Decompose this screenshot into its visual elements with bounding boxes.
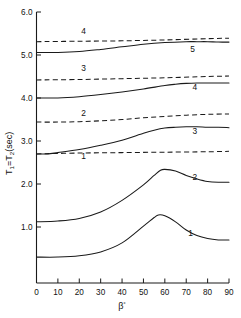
y-axis-title: T1=T2(sec) [4,132,15,175]
curve-label-1: 1 [188,228,193,238]
x-tick-label: 0 [34,288,39,297]
curve-label-5: 5 [190,44,195,54]
x-axis-title-deg: ° [123,300,126,307]
curve-label-2: 2 [192,172,197,182]
data-curve-4 [37,83,230,98]
data-curve-2d [37,114,230,122]
curve-label-1d: 1 [81,151,86,161]
curve-labels-group: 123451234 [81,26,197,239]
x-tick-label: 90 [224,288,234,297]
chart-figure: 1.02.03.04.05.06.0 0102030405060708090 1… [0,0,241,318]
data-curves-group [37,38,230,257]
y-tick-label: 2.0 [21,180,33,189]
y-tick-label: 4.0 [21,94,33,103]
x-tick-label: 10 [53,288,63,297]
data-curve-2 [37,169,230,222]
x-axis-title: β° [118,300,126,311]
x-axis-title-text: β° [118,300,126,311]
data-curve-1 [37,215,230,257]
x-tick-label: 40 [118,288,128,297]
x-tick-label: 80 [203,288,213,297]
data-curve-3d [37,76,230,80]
x-tick-label: 60 [160,288,170,297]
x-tick-label: 50 [139,288,149,297]
x-axis-ticks [37,279,230,284]
y-tick-label: 5.0 [21,51,33,60]
y-axis-ticks [37,12,42,227]
curve-label-3: 3 [192,126,197,136]
line-chart-svg: 1.02.03.04.05.06.0 0102030405060708090 1… [0,0,241,318]
y-tick-label: 3.0 [21,137,33,146]
curve-label-4d: 4 [81,26,86,36]
curve-label-3d: 3 [81,63,86,73]
y-tick-label: 1.0 [21,223,33,232]
x-tick-label: 70 [182,288,192,297]
curve-label-4: 4 [192,82,197,92]
data-curve-3 [37,127,230,154]
y-axis-title-unit: (sec) [4,132,14,152]
curve-label-2d: 2 [81,108,86,118]
y-axis-title-eq: =T [4,155,14,166]
x-tick-label: 30 [96,288,106,297]
y-axis-tick-labels: 1.02.03.04.05.06.0 [21,8,33,232]
x-tick-label: 20 [75,288,85,297]
y-tick-label: 6.0 [21,8,33,17]
data-curve-5 [37,42,230,53]
x-axis-tick-labels: 0102030405060708090 [34,288,234,297]
y-axis-title-text: T1=T2(sec) [4,132,15,175]
